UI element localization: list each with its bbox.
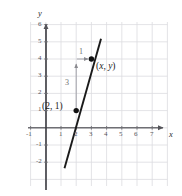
- y-tick-label-5: 5: [38, 38, 42, 45]
- y-tick-label-4: 4: [38, 55, 42, 62]
- data-point-x-y: [89, 56, 94, 61]
- y-tick-label-neg2: -2: [36, 158, 42, 165]
- x-tick-label-5: 5: [119, 131, 123, 138]
- x-tick-label-4: 4: [104, 131, 108, 138]
- data-point-2-1: [74, 108, 79, 113]
- y-tick-label-3: 3: [38, 72, 42, 79]
- x-tick-label-6: 6: [134, 131, 138, 138]
- y-tick-label-6: 6: [38, 21, 42, 28]
- x-tick-label-1: 1: [59, 131, 63, 138]
- point-label-x-y: (x, y): [96, 62, 116, 72]
- point-label-2-1: (2, 1): [42, 102, 63, 112]
- x-axis-label: x: [169, 130, 173, 139]
- graph-canvas: [0, 0, 182, 196]
- plotted-line: [65, 39, 102, 168]
- y-tick-label-1: 1: [38, 106, 42, 113]
- x-tick-label-3: 3: [89, 131, 93, 138]
- run-label: 1: [79, 48, 83, 56]
- x-tick-label-2: 2: [74, 131, 78, 138]
- y-axis-label: y: [38, 9, 42, 18]
- y-tick-label-2: 2: [38, 89, 42, 96]
- x-tick-label-7: 7: [150, 131, 154, 138]
- x-tick-label-neg1: -1: [26, 131, 32, 138]
- paren-close: ): [112, 61, 115, 71]
- coordinate-plane-figure: y x 6 5 4 3 2 1 -1 -2 -1 1 2 3 4 5 6 7 3…: [0, 0, 182, 196]
- rise-label: 3: [65, 79, 69, 87]
- y-tick-label-neg1: -1: [36, 141, 42, 148]
